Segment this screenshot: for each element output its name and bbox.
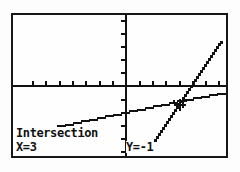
series-y1-shallow-line xyxy=(57,93,226,127)
status-y-readout: Y=-1 xyxy=(126,141,153,153)
calculator-screen: Intersection X=3 Y=-1 xyxy=(11,13,228,158)
status-mode-label: Intersection xyxy=(16,127,98,139)
screenshot-root: Intersection X=3 Y=-1 xyxy=(0,0,240,172)
status-x-readout: X=3 xyxy=(16,141,36,153)
series-y2-steep-line xyxy=(154,41,223,142)
graph-plot-area: Intersection X=3 Y=-1 xyxy=(13,15,226,156)
